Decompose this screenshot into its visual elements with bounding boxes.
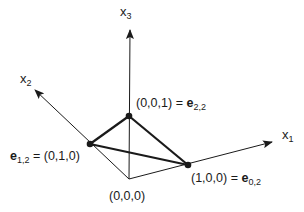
label-e12: e1,2 = (0,1,0) <box>10 150 80 165</box>
edge-e12-e02 <box>90 144 188 165</box>
simplex-diagram: x3 x2 x1 (0,0,1) = e2,2 e1,2 = (0,1,0) (… <box>0 0 304 212</box>
label-e22: (0,0,1) = e2,2 <box>136 97 206 112</box>
label-origin: (0,0,0) <box>109 190 145 203</box>
edge-e12-e22 <box>90 116 129 144</box>
vertex-e02 <box>185 162 192 169</box>
axis-x2 <box>35 90 129 179</box>
axis-x1-label: x1 <box>282 128 294 144</box>
label-e02: (1,0,0) = e0,2 <box>191 172 261 187</box>
axis-x3-label: x3 <box>120 5 132 21</box>
vertex-e12 <box>87 141 94 148</box>
axis-x2-label: x2 <box>20 72 32 88</box>
vertex-e22 <box>126 113 133 120</box>
axis-x3 <box>129 30 130 179</box>
